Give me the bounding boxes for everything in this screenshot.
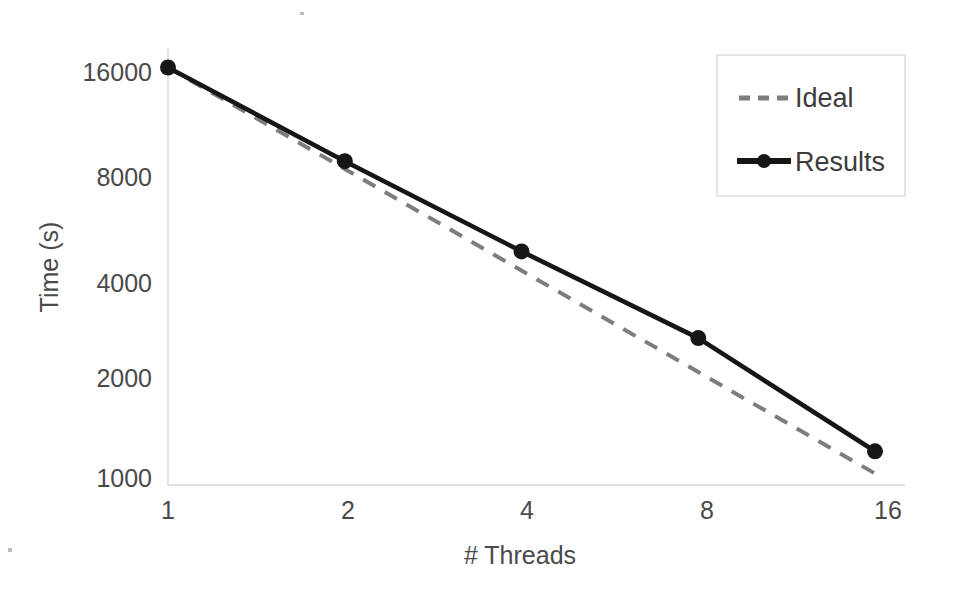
y-tick-label-1000: 1000	[96, 464, 152, 492]
scan-speck	[300, 12, 304, 15]
legend-label-results: Results	[795, 147, 885, 177]
y-axis-title: Time (s)	[35, 222, 63, 313]
data-point-marker	[690, 330, 706, 346]
y-tick-label-2000: 2000	[96, 364, 152, 392]
x-tick-label-8: 8	[700, 496, 714, 524]
y-tick-label-8000: 8000	[96, 163, 152, 191]
data-point-marker	[514, 243, 530, 259]
data-point-marker	[867, 443, 883, 459]
x-tick-label-4: 4	[520, 496, 534, 524]
y-tick-label-4000: 4000	[96, 269, 152, 297]
chart-canvas: 16000 8000 4000 2000 1000 1 2 4 8 16 Tim…	[0, 0, 953, 603]
x-tick-label-1: 1	[161, 496, 175, 524]
legend-label-ideal: Ideal	[795, 83, 854, 113]
legend-marker-results-icon	[757, 154, 771, 168]
y-tick-label-16000: 16000	[82, 58, 152, 86]
chart-figure: 16000 8000 4000 2000 1000 1 2 4 8 16 Tim…	[0, 0, 953, 603]
chart-legend: Ideal Results	[717, 55, 905, 196]
data-point-marker	[160, 60, 176, 76]
x-tick-label-2: 2	[341, 496, 355, 524]
x-axis-title: # Threads	[464, 541, 576, 569]
x-tick-label-16: 16	[874, 496, 902, 524]
data-point-marker	[337, 153, 353, 169]
scan-speck-2	[8, 548, 12, 552]
